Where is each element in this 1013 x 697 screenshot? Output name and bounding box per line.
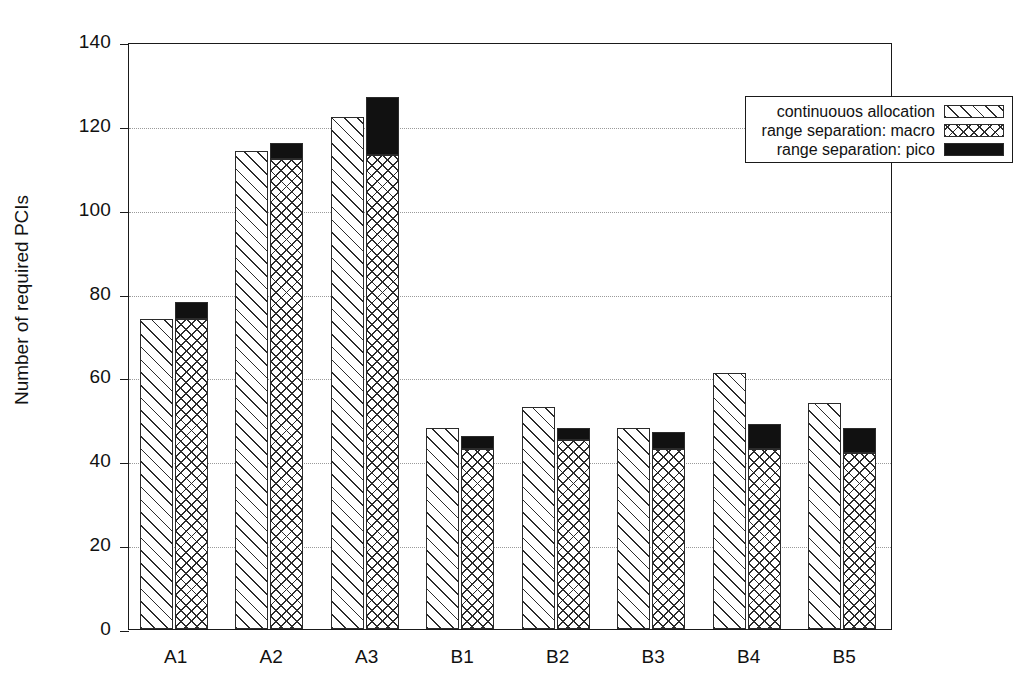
x-axis-tick-label: B2 <box>518 646 598 668</box>
bar-range-separation-stack <box>748 424 781 629</box>
cross-hatch-swatch-icon <box>944 124 1004 137</box>
bar-range-separation-stack <box>652 432 685 629</box>
segment-range-separation-macro <box>748 449 781 629</box>
bar-continuous-allocation <box>713 373 746 629</box>
segment-range-separation-pico <box>366 97 399 156</box>
y-axis-tick-label: 120 <box>23 115 111 137</box>
solid-black-swatch-icon <box>944 143 1004 156</box>
bar-continuous-allocation <box>140 319 173 629</box>
segment-range-separation-pico <box>175 302 208 319</box>
y-axis-tick <box>120 296 129 297</box>
x-axis-tick-label: A3 <box>327 646 407 668</box>
segment-range-separation-pico <box>843 428 876 453</box>
y-axis-tick <box>120 463 129 464</box>
x-axis-tick-label: B1 <box>422 646 502 668</box>
y-axis-tick-label: 40 <box>23 450 111 472</box>
legend-label: continuouos allocation <box>777 102 935 121</box>
y-axis-tick <box>120 379 129 380</box>
legend-item: continuouos allocation <box>754 102 1004 121</box>
segment-range-separation-macro <box>175 319 208 629</box>
y-axis-tick-label: 0 <box>23 618 111 640</box>
legend-label: range separation: macro <box>762 121 935 140</box>
bar-range-separation-stack <box>843 428 876 629</box>
y-axis-tick <box>120 44 129 45</box>
y-axis-tick <box>120 212 129 213</box>
y-axis-tick-label: 20 <box>23 534 111 556</box>
segment-range-separation-macro <box>557 440 590 629</box>
plot-area: continuouos allocation range separation:… <box>128 43 892 630</box>
bar-continuous-allocation <box>617 428 650 629</box>
bar-continuous-allocation <box>426 428 459 629</box>
legend-item: range separation: pico <box>754 140 1004 159</box>
bar-range-separation-stack <box>461 436 494 629</box>
bar-range-separation-stack <box>175 302 208 629</box>
segment-range-separation-macro <box>366 155 399 629</box>
segment-range-separation-macro <box>461 449 494 629</box>
legend-label: range separation: pico <box>777 140 935 159</box>
x-axis-tick-label: B4 <box>709 646 789 668</box>
bar-range-separation-stack <box>366 97 399 629</box>
segment-range-separation-pico <box>557 428 590 441</box>
segment-range-separation-macro <box>270 159 303 629</box>
segment-range-separation-pico <box>270 143 303 160</box>
x-axis-tick-label: B5 <box>804 646 884 668</box>
bar-continuous-allocation <box>331 117 364 629</box>
y-axis-tick-label: 100 <box>23 199 111 221</box>
y-axis-tick-label: 80 <box>23 283 111 305</box>
x-axis-tick-label: A1 <box>136 646 216 668</box>
bar-continuous-allocation <box>235 151 268 629</box>
segment-range-separation-pico <box>652 432 685 449</box>
y-axis-tick <box>120 128 129 129</box>
y-axis-tick-label: 60 <box>23 366 111 388</box>
bar-continuous-allocation <box>808 403 841 629</box>
legend-item: range separation: macro <box>754 121 1004 140</box>
segment-range-separation-pico <box>461 436 494 449</box>
segment-range-separation-pico <box>748 424 781 449</box>
x-axis-tick-label: B3 <box>613 646 693 668</box>
diagonal-hatch-swatch-icon <box>944 105 1004 118</box>
legend: continuouos allocation range separation:… <box>745 96 1013 163</box>
y-axis-tick-label: 140 <box>23 31 111 53</box>
y-axis-tick <box>120 547 129 548</box>
bar-range-separation-stack <box>557 428 590 629</box>
segment-range-separation-macro <box>843 453 876 629</box>
bar-range-separation-stack <box>270 143 303 629</box>
segment-range-separation-macro <box>652 449 685 629</box>
bar-continuous-allocation <box>522 407 555 629</box>
x-axis-tick-label: A2 <box>231 646 311 668</box>
y-axis-tick <box>120 631 129 632</box>
